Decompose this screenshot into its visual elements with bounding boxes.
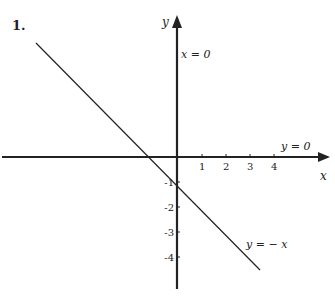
y-axis-equation: x = 0 — [181, 48, 210, 61]
x-axis-arrow-icon — [318, 152, 330, 162]
problem-number: 1. — [12, 18, 26, 33]
y-tick-neg2: -2 — [164, 202, 174, 213]
x-tick-4: 4 — [271, 161, 277, 172]
line-equation: y = − x — [245, 238, 288, 251]
x-axis-label: x — [320, 169, 327, 183]
graph: 1. 1 2 3 4 -1 -2 -3 -4 y x x = 0 y = 0 y… — [0, 0, 335, 299]
y-tick-neg3: -3 — [164, 227, 174, 238]
x-tick-1: 1 — [199, 161, 205, 172]
y-tick-neg4: -4 — [164, 252, 174, 263]
x-tick-2: 2 — [223, 161, 229, 172]
x-axis-equation: y = 0 — [280, 140, 310, 153]
y-axis-arrow-icon — [172, 15, 182, 28]
y-axis-label: y — [161, 15, 169, 29]
x-tick-3: 3 — [247, 161, 253, 172]
